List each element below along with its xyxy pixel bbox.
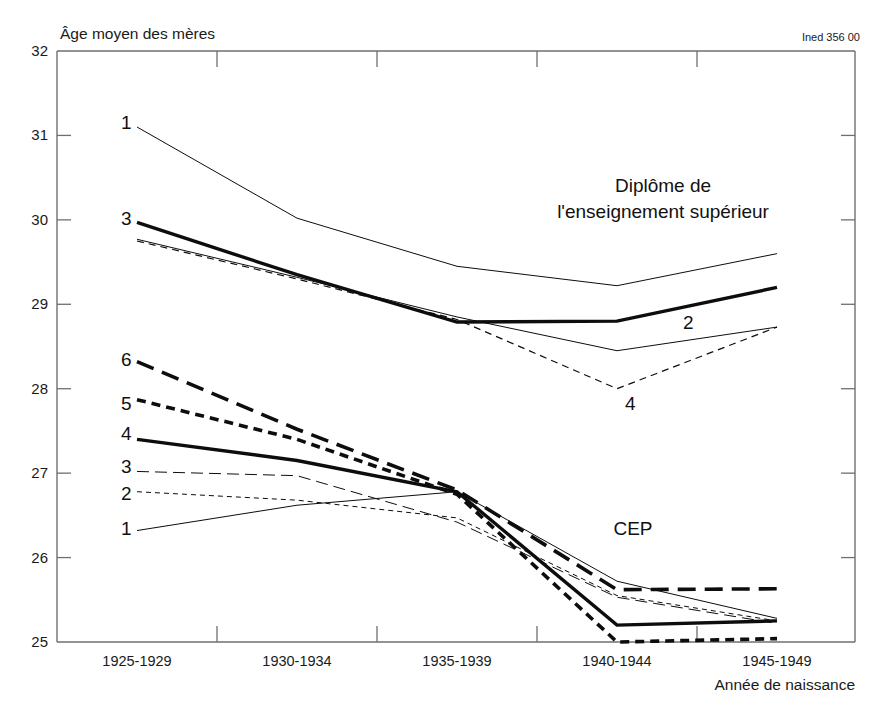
series-label-2: 2 bbox=[683, 312, 694, 333]
group-annotation-1: l'enseignement supérieur bbox=[557, 201, 769, 222]
series-label-5: 5 bbox=[121, 393, 132, 414]
series-line-3 bbox=[137, 222, 777, 322]
line-chart: Ined 356 00 Âge moyen des mères Année de… bbox=[0, 0, 882, 708]
credit-label: Ined 356 00 bbox=[802, 31, 860, 43]
annotation-layer: Diplôme del'enseignement supérieurCEP bbox=[557, 175, 769, 539]
y-tick-label: 29 bbox=[31, 295, 48, 312]
series-label-6: 6 bbox=[121, 349, 132, 370]
series-line-1 bbox=[137, 492, 777, 619]
x-category-label: 1940-1944 bbox=[582, 653, 651, 669]
series-line-4 bbox=[137, 439, 777, 625]
y-tick-label: 25 bbox=[31, 633, 48, 650]
y-tick-label: 32 bbox=[31, 42, 48, 59]
y-tick-label: 30 bbox=[31, 211, 48, 228]
x-category-label: 1935-1939 bbox=[422, 653, 491, 669]
series-label-1: 1 bbox=[121, 112, 132, 133]
y-tick-label: 26 bbox=[31, 549, 48, 566]
x-axis-title: Année de naissance bbox=[715, 676, 855, 693]
y-tick-label: 27 bbox=[31, 464, 48, 481]
series-line-2 bbox=[137, 492, 777, 621]
series-label-1: 1 bbox=[121, 518, 132, 539]
group-annotation-2: CEP bbox=[613, 518, 652, 539]
series-line-5 bbox=[137, 400, 777, 642]
y-tick-label: 28 bbox=[31, 380, 48, 397]
x-category-label: 1930-1934 bbox=[262, 653, 331, 669]
x-category-label: 1925-1929 bbox=[102, 653, 171, 669]
figure-root: Ined 356 00 Âge moyen des mères Année de… bbox=[0, 0, 882, 708]
y-axis-title: Âge moyen des mères bbox=[60, 25, 215, 42]
y-tick-label: 31 bbox=[31, 126, 48, 143]
series-label-4: 4 bbox=[625, 393, 636, 414]
series-line-2 bbox=[137, 239, 777, 350]
x-tick-group: 1925-19291930-19341935-19391940-19441945… bbox=[102, 51, 811, 669]
series-label-2: 2 bbox=[121, 483, 132, 504]
x-category-label: 1945-1949 bbox=[742, 653, 811, 669]
series-line-4 bbox=[137, 241, 777, 389]
group-annotation-0: Diplôme de bbox=[615, 175, 711, 196]
series-label-4: 4 bbox=[121, 423, 132, 444]
series-label-3: 3 bbox=[121, 208, 132, 229]
plot-frame bbox=[57, 51, 855, 642]
series-line-6 bbox=[137, 362, 777, 590]
series-label-layer: 1234123456 bbox=[121, 112, 694, 539]
y-tick-group: 2526272829303132 bbox=[31, 42, 855, 650]
series-label-3: 3 bbox=[121, 456, 132, 477]
